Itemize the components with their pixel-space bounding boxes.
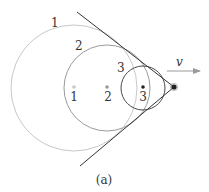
emission-point-2-dot <box>105 85 109 89</box>
emission-point-1-dot <box>72 85 76 89</box>
mach-cone-upper-line <box>77 12 174 87</box>
wavefront-2-label: 2 <box>75 39 83 53</box>
velocity-label: v <box>176 55 183 69</box>
emission-point-2-label: 2 <box>104 90 112 104</box>
emission-point-3-dot <box>141 85 145 89</box>
emission-point-3-label: 3 <box>139 90 147 104</box>
wavefront-1-label: 1 <box>51 16 59 30</box>
shock-wave-diagram: v 1 2 3 1 2 3 (a) <box>0 0 209 192</box>
figure-caption: (a) <box>96 173 113 187</box>
mach-cone-lower-line <box>80 87 174 166</box>
source-dot <box>171 84 176 89</box>
emission-point-1-label: 1 <box>70 90 78 104</box>
wavefront-3-label: 3 <box>117 61 125 75</box>
